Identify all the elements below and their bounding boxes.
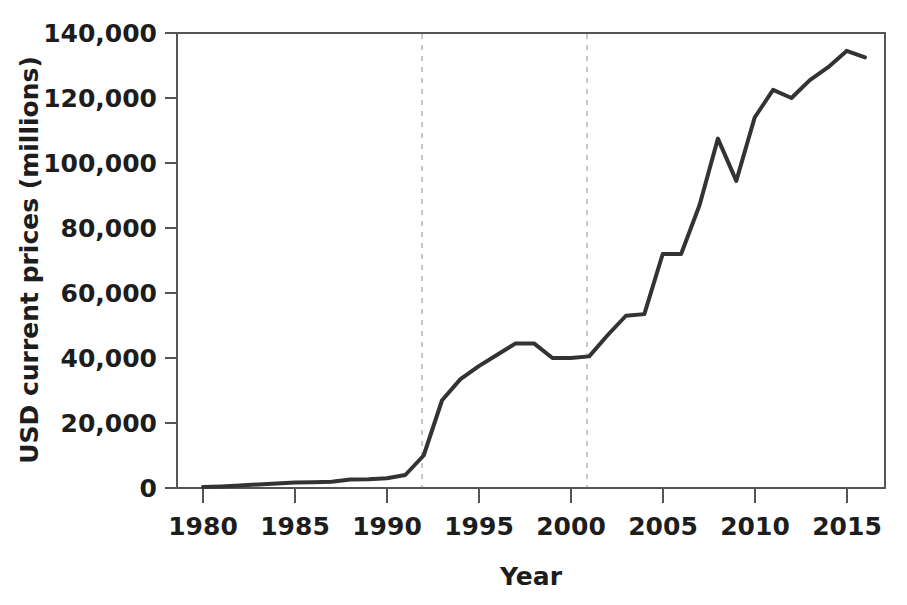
x-tick-label-2010: 2010 [720,512,790,541]
y-tick-label-6: 120,000 [43,84,157,113]
x-tick-label-2000: 2000 [536,512,606,541]
y-tick-label-4: 80,000 [61,214,157,243]
y-tick-label-1: 20,000 [61,409,157,438]
chart-page: 0 20,000 40,000 60,000 80,000 100,000 12… [0,0,907,605]
y-tick-label-7: 140,000 [43,19,157,48]
x-tick-label-2015: 2015 [812,512,882,541]
x-tick-label-1995: 1995 [444,512,514,541]
x-axis-title: Year [499,562,563,591]
y-tick-label-5: 100,000 [43,149,157,178]
x-tick-label-2005: 2005 [628,512,698,541]
x-tick-label-1980: 1980 [168,512,238,541]
x-tick-label-1990: 1990 [352,512,422,541]
line-chart: 0 20,000 40,000 60,000 80,000 100,000 12… [0,0,907,605]
x-tick-label-1985: 1985 [260,512,330,541]
y-tick-label-3: 60,000 [61,279,157,308]
y-axis-title: USD current prices (millions) [15,56,44,464]
y-tick-label-0: 0 [140,474,157,503]
y-tick-label-2: 40,000 [61,344,157,373]
